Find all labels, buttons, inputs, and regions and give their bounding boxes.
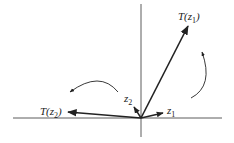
rotation-arrow-right-icon	[191, 52, 206, 98]
rotation-arrow-left-icon	[70, 81, 118, 92]
vector-z2	[134, 107, 141, 118]
vector-T-z1	[141, 26, 188, 118]
label-T-z1: T(z1)	[178, 11, 200, 25]
label-z2: z2	[124, 93, 132, 107]
vector-T-z2	[68, 112, 141, 118]
label-T-z2: T(z2)	[40, 106, 62, 120]
label-z1: z1	[167, 105, 175, 119]
vector-z1	[141, 113, 163, 118]
